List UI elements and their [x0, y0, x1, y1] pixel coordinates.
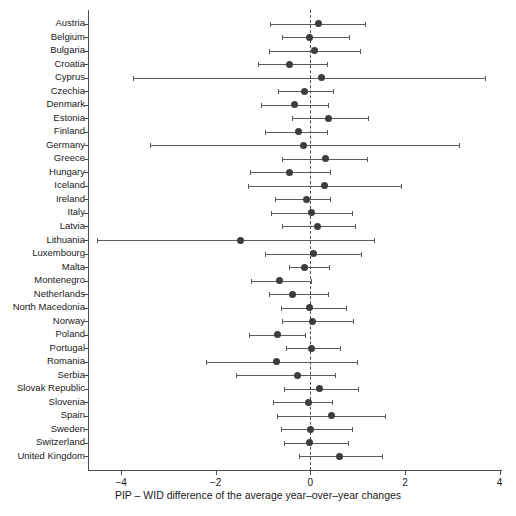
ci-cap-low — [275, 197, 276, 202]
category-label: Austria — [55, 18, 85, 28]
data-point — [273, 358, 280, 365]
data-point — [325, 115, 332, 122]
category-label: Cyprus — [55, 72, 85, 82]
y-axis-line — [88, 10, 89, 470]
data-point — [286, 61, 293, 68]
y-axis-tick — [84, 24, 88, 25]
x-axis-tick-label: 2 — [385, 477, 425, 488]
ci-cap-high — [459, 143, 460, 148]
ci-cap-high — [357, 360, 358, 365]
ci-cap-low — [206, 360, 207, 365]
ci-cap-high — [348, 441, 349, 446]
ci-cap-low — [284, 387, 285, 392]
ci-cap-low — [281, 427, 282, 432]
data-point — [321, 182, 328, 189]
ci-cap-high — [330, 170, 331, 175]
data-point — [274, 331, 281, 338]
y-axis-tick — [84, 240, 88, 241]
ci-cap-low — [284, 441, 285, 446]
ci-cap-low — [270, 22, 271, 27]
ci-cap-low — [269, 292, 270, 297]
data-point — [305, 399, 312, 406]
data-point — [291, 101, 298, 108]
x-axis-tick — [500, 471, 501, 475]
data-point — [315, 20, 322, 27]
y-axis-tick — [84, 37, 88, 38]
category-label: Italy — [68, 207, 85, 217]
data-point — [237, 237, 244, 244]
ci-cap-low — [281, 306, 282, 311]
y-axis-tick — [84, 132, 88, 133]
ci-cap-low — [261, 103, 262, 108]
y-axis-tick — [84, 64, 88, 65]
y-axis-tick — [84, 348, 88, 349]
confidence-interval-bar — [258, 64, 327, 65]
category-label: Iceland — [54, 180, 85, 190]
ci-cap-low — [282, 157, 283, 162]
category-label: North Macedonia — [13, 302, 85, 312]
y-axis-tick — [84, 281, 88, 282]
data-point — [306, 439, 313, 446]
confidence-interval-bar — [97, 240, 374, 241]
category-label: Finland — [54, 126, 85, 136]
ci-cap-high — [358, 387, 359, 392]
ci-cap-low — [278, 89, 279, 94]
data-point — [300, 142, 307, 149]
ci-cap-low — [271, 211, 272, 216]
ci-cap-low — [269, 49, 270, 54]
confidence-interval-bar — [206, 362, 356, 363]
confidence-interval-bar — [269, 294, 329, 295]
y-axis-tick — [84, 118, 88, 119]
x-axis-line — [88, 470, 502, 471]
x-axis-tick-label: 4 — [480, 477, 516, 488]
category-label: Luxembourg — [32, 248, 85, 258]
ci-cap-high — [367, 157, 368, 162]
ci-cap-low — [286, 346, 287, 351]
y-axis-tick — [84, 254, 88, 255]
ci-cap-high — [360, 49, 361, 54]
confidence-interval-bar — [236, 375, 335, 376]
ci-cap-low — [133, 76, 134, 81]
ci-cap-high — [340, 346, 341, 351]
ci-cap-low — [289, 265, 290, 270]
ci-cap-high — [328, 103, 329, 108]
ci-cap-low — [251, 279, 252, 284]
ci-cap-high — [327, 130, 328, 135]
category-label: Sweden — [51, 424, 85, 434]
ci-cap-high — [385, 414, 386, 419]
ci-cap-high — [332, 400, 333, 405]
data-point — [294, 372, 301, 379]
category-label: Croatia — [54, 59, 85, 69]
x-axis-tick-label: 0 — [290, 477, 330, 488]
category-label: Hungary — [49, 167, 85, 177]
ci-cap-low — [250, 170, 251, 175]
confidence-interval-bar — [282, 321, 353, 322]
ci-cap-high — [311, 279, 312, 284]
y-axis-tick — [84, 389, 88, 390]
category-label: Belgium — [51, 32, 85, 42]
y-axis-tick — [84, 213, 88, 214]
data-point — [301, 264, 308, 271]
y-axis-tick — [84, 294, 88, 295]
ci-cap-low — [282, 224, 283, 229]
ci-cap-high — [329, 265, 330, 270]
data-point — [295, 128, 302, 135]
ci-cap-low — [282, 319, 283, 324]
category-label: Germany — [46, 140, 85, 150]
data-point — [318, 74, 325, 81]
x-axis-tick-label: −4 — [101, 477, 141, 488]
data-point — [311, 47, 318, 54]
ci-cap-high — [330, 197, 331, 202]
ci-cap-low — [150, 143, 151, 148]
category-label: Slovenia — [49, 397, 85, 407]
category-label: Czechia — [51, 86, 85, 96]
confidence-interval-bar — [273, 402, 331, 403]
ci-cap-low — [97, 238, 98, 243]
ci-cap-high — [355, 224, 356, 229]
confidence-interval-bar — [281, 308, 346, 309]
ci-cap-high — [346, 306, 347, 311]
data-point — [316, 385, 323, 392]
category-label: Netherlands — [34, 289, 85, 299]
y-axis-tick — [84, 226, 88, 227]
data-point — [301, 88, 308, 95]
